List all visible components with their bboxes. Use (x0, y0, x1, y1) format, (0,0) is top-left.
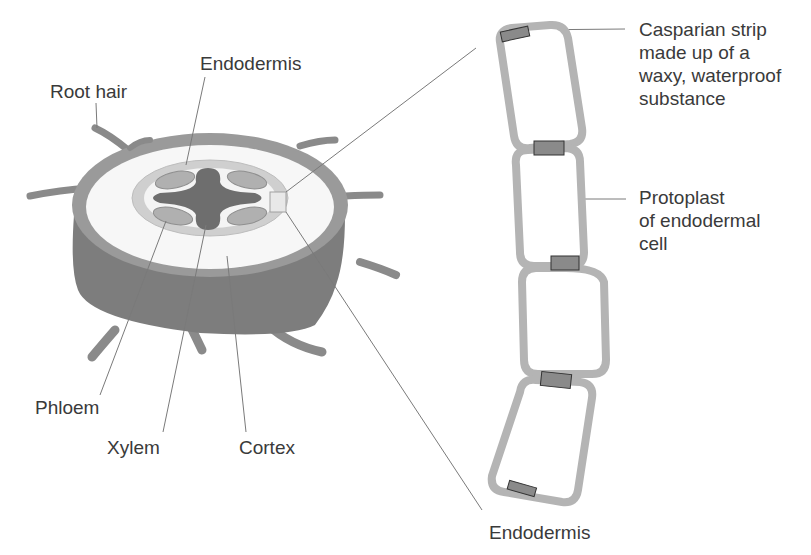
label-protoplast-line: cell (639, 232, 760, 255)
label-endodermis-top: Endodermis (200, 52, 301, 75)
endodermal-cells (492, 25, 606, 502)
root-cross-section (30, 128, 396, 357)
label-root-hair: Root hair (50, 80, 127, 103)
label-xylem: Xylem (107, 436, 160, 459)
label-protoplast: Protoplast of endodermal cell (639, 186, 760, 255)
label-casparian-line: made up of a (639, 41, 781, 64)
label-casparian-line: substance (639, 87, 781, 110)
label-endodermis-bottom: Endodermis (489, 521, 590, 544)
label-protoplast-line: of endodermal (639, 209, 760, 232)
label-cortex: Cortex (239, 436, 295, 459)
label-casparian-line: waxy, waterproof (639, 64, 781, 87)
label-casparian-line: Casparian strip (639, 18, 781, 41)
label-phloem: Phloem (35, 396, 99, 419)
highlight-box (270, 192, 286, 212)
label-casparian-strip: Casparian strip made up of a waxy, water… (639, 18, 781, 110)
label-protoplast-line: Protoplast (639, 186, 760, 209)
